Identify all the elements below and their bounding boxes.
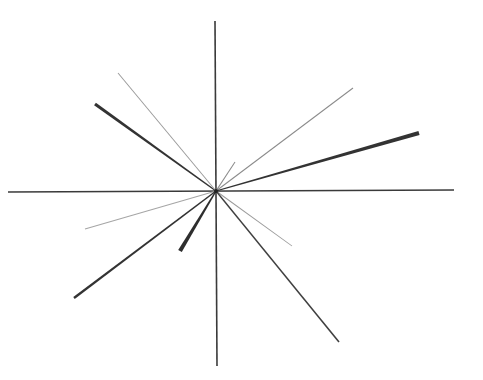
ray-upper-right-thin	[216, 88, 354, 192]
horizontal-axis	[8, 190, 454, 192]
ray-lower-left-thick	[73, 190, 216, 299]
ray-lower-right-long	[215, 191, 339, 343]
center-hub	[214, 189, 218, 193]
diagram-canvas	[0, 0, 483, 380]
ray-right-thick	[216, 131, 420, 192]
radial-star-diagram	[0, 0, 483, 380]
ray-upper-left-thick	[94, 103, 216, 192]
